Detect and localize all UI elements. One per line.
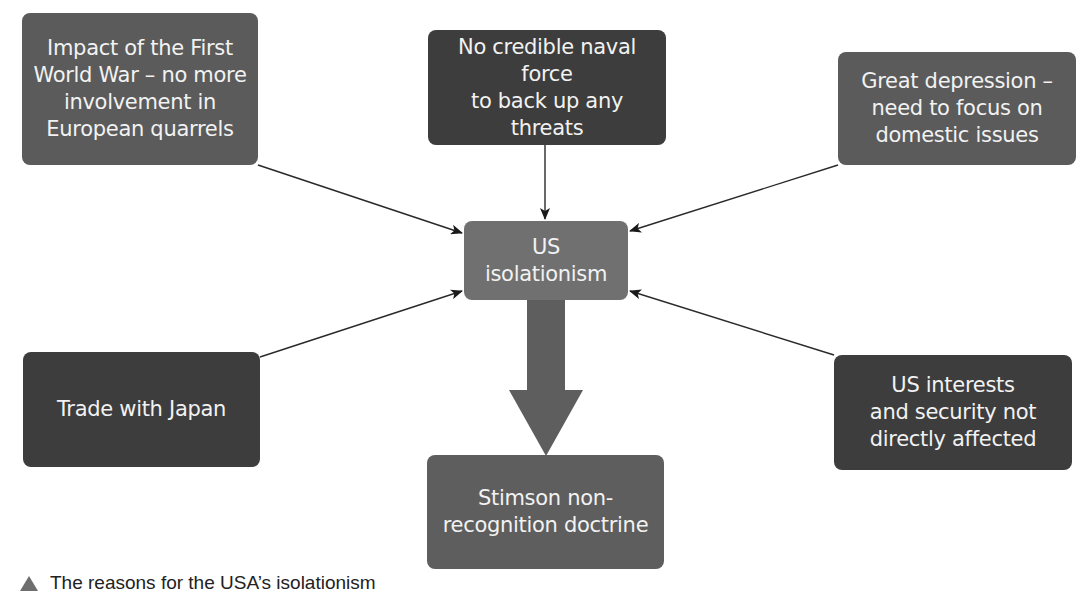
cause-line: directly affected	[870, 426, 1036, 453]
caption-text: The reasons for the USA’s isolationism	[50, 572, 376, 594]
arrow-depression-to-center	[630, 165, 838, 231]
cause-line: No credible naval force	[436, 34, 658, 88]
cause-box-interests: US interests and security not directly a…	[834, 355, 1072, 470]
cause-box-depression: Great depression – need to focus on dome…	[838, 52, 1076, 165]
cause-line: Impact of the First	[33, 35, 246, 62]
arrow-trade-to-center	[260, 291, 462, 357]
triangle-icon	[20, 576, 38, 591]
outcome-line: Stimson non-	[443, 485, 649, 512]
big-down-arrow	[509, 298, 583, 456]
arrow-interests-to-center	[630, 291, 834, 355]
arrow-ww1-to-center	[258, 165, 462, 233]
cause-box-trade: Trade with Japan	[23, 352, 260, 467]
outcome-line: recognition doctrine	[443, 512, 649, 539]
cause-box-naval: No credible naval force to back up any t…	[428, 30, 666, 145]
cause-line: need to focus on	[861, 95, 1052, 122]
center-node-us-isolationism: US isolationism	[464, 221, 628, 300]
center-label: US isolationism	[472, 234, 620, 288]
cause-line: and security not	[870, 399, 1036, 426]
cause-line: European quarrels	[33, 116, 246, 143]
cause-line: World War – no more	[33, 62, 246, 89]
cause-line: Great depression –	[861, 68, 1052, 95]
cause-line: to back up any threats	[436, 88, 658, 142]
cause-line: involvement in	[33, 89, 246, 116]
cause-box-ww1: Impact of the First World War – no more …	[22, 13, 258, 165]
cause-line: domestic issues	[861, 122, 1052, 149]
cause-line: US interests	[870, 372, 1036, 399]
figure-caption: The reasons for the USA’s isolationism	[20, 572, 376, 594]
outcome-box-stimson: Stimson non- recognition doctrine	[427, 455, 664, 569]
cause-line: Trade with Japan	[57, 396, 226, 423]
